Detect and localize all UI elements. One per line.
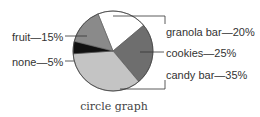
label-none: none—5% (12, 56, 63, 68)
chart-caption: circle graph (0, 100, 228, 113)
label-cookies: cookies—25% (166, 47, 236, 59)
pie-slices (73, 11, 153, 91)
label-granola-bar: granola bar—20% (166, 26, 255, 38)
label-fruit: fruit—15% (12, 31, 63, 43)
label-candy-bar: candy bar—35% (166, 69, 247, 81)
